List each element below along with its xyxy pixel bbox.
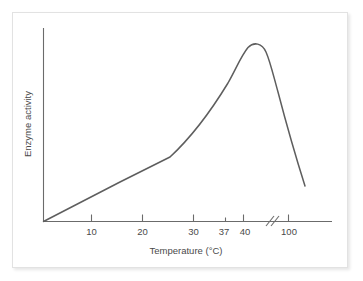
x-tick-label-20: 20: [137, 226, 148, 237]
x-axis-title: Temperature (°C): [150, 245, 223, 256]
x-tick-label-100: 100: [281, 226, 297, 237]
enzyme-activity-chart: 10 20 30 37 40 100 Temperature (°C) Enzy…: [0, 0, 363, 281]
enzyme-activity-figure: 10 20 30 37 40 100 Temperature (°C) Enzy…: [0, 0, 363, 281]
y-axis-title: Enzyme activity: [22, 91, 33, 157]
x-tick-label-30: 30: [188, 226, 199, 237]
x-tick-label-10: 10: [86, 226, 97, 237]
x-tick-label-37: 37: [219, 226, 230, 237]
enzyme-activity-curve: [44, 44, 306, 222]
x-tick-label-40: 40: [240, 226, 251, 237]
